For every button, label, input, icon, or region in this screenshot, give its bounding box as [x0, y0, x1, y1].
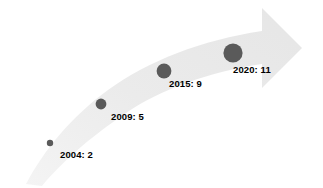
milestone-label-2020: 2020: 11 — [233, 64, 271, 75]
milestone-label-2009: 2009: 5 — [111, 111, 144, 122]
chart-canvas: 2004: 2 2009: 5 2015: 9 2020: 11 — [0, 0, 323, 188]
milestone-bubble-2004[interactable] — [47, 140, 53, 146]
milestone-bubble-2009[interactable] — [96, 99, 107, 110]
milestone-bubble-2015[interactable] — [157, 64, 172, 79]
milestone-label-2015: 2015: 9 — [169, 78, 202, 89]
milestone-label-2004: 2004: 2 — [60, 149, 93, 160]
milestone-bubble-2020[interactable] — [223, 43, 242, 62]
milestone-bubbles-layer — [0, 0, 323, 188]
